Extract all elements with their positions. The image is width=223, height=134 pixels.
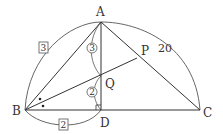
segment-ac	[101, 22, 200, 110]
label-b: B	[12, 104, 21, 118]
label-p: P	[141, 44, 149, 58]
label-d: D	[100, 116, 110, 130]
arc-ac-length: 20	[158, 42, 172, 55]
angle-dot-2	[42, 105, 45, 108]
outer-arc	[25, 22, 200, 110]
label-q: Q	[105, 77, 115, 91]
label-a: A	[95, 5, 105, 19]
arc-ab-ratio: 3	[41, 43, 47, 53]
segment-bp	[25, 58, 137, 110]
angle-dot-1	[39, 98, 42, 101]
aq-ratio: 3	[89, 43, 95, 53]
label-c: C	[203, 106, 212, 120]
geometry-diagram: A B C D Q P 20 3 2 3 2	[0, 0, 223, 134]
qd-ratio: 2	[89, 87, 95, 97]
arc-bd-ratio: 2	[61, 120, 67, 130]
